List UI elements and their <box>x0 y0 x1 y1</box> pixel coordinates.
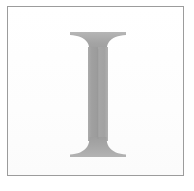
image-frame-border <box>7 6 184 176</box>
stem-center-hairline <box>97 49 98 139</box>
letter-bottom-serif <box>70 137 126 157</box>
glyph-container <box>8 7 185 177</box>
letter-plate <box>0 0 194 191</box>
letter-i-glyph <box>8 7 185 177</box>
